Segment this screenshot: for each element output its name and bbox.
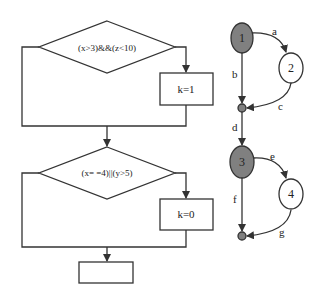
process-2-label: k=0 [177,208,195,220]
node-4-label: 4 [288,187,294,201]
flowchart [22,21,213,283]
edge-a [252,33,286,52]
edge-d-label: d [232,121,238,133]
node-3-label: 3 [239,155,245,169]
node-1-label: 1 [239,31,245,45]
edge-c [247,83,291,108]
decision-2-label: (x= =4)||(y>5) [81,168,132,178]
decision-1-label: (x>3)&&(z<10) [78,43,136,53]
node-2-label: 2 [288,61,294,75]
edge-g-label: g [279,226,285,238]
control-flow-graph [230,23,303,240]
graph-junction-1 [238,104,246,112]
graph-junction-2 [238,232,246,240]
edge-f-label: f [233,193,237,205]
edge-merge-2 [107,230,186,247]
edge-a-label: a [272,25,277,37]
edge-e-label: e [270,150,275,162]
edge-merge-1 [107,105,186,126]
edge-c-label: c [278,100,283,112]
diagram-canvas: (x>3)&&(z<10) k=1 (x= =4)||(y>5) k=0 1 2… [0,0,324,299]
edge-true-1 [175,47,186,72]
process-1-label: k=1 [177,83,194,95]
edge-b-label: b [232,68,238,80]
end-box [79,262,133,283]
edge-true-2 [175,173,186,198]
